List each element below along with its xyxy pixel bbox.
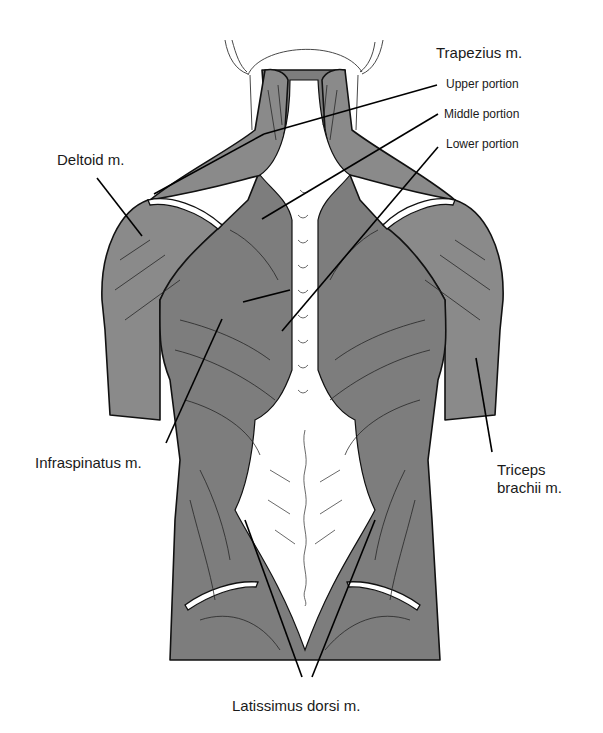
label-latissimus: Latissimus dorsi m. [232, 697, 360, 714]
label-trapezius-upper: Upper portion [446, 78, 519, 92]
label-infraspinatus: Infraspinatus m. [35, 454, 142, 471]
label-triceps-line2: brachii m. [497, 479, 562, 496]
label-trapezius-lower: Lower portion [446, 138, 519, 152]
label-trapezius: Trapezius m. [436, 44, 522, 61]
label-deltoid: Deltoid m. [57, 151, 125, 168]
label-trapezius-middle: Middle portion [444, 108, 519, 122]
label-triceps-line1: Triceps [497, 461, 546, 478]
